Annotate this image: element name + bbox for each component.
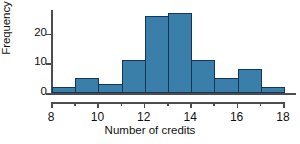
histogram-bar (168, 13, 192, 93)
x-tick-mark (213, 102, 215, 106)
y-tick-label: 10 (34, 55, 47, 67)
x-tick-mark (74, 102, 76, 106)
histogram-bar (191, 60, 215, 93)
x-tick-mark (121, 102, 123, 106)
histogram-bar (122, 60, 146, 93)
histogram-bar (238, 69, 262, 93)
histogram-bar (75, 78, 99, 93)
x-tick-label: 8 (48, 110, 55, 124)
plot-baseline (51, 93, 296, 95)
x-tick-mark (283, 102, 285, 108)
x-tick-mark (237, 102, 239, 108)
x-tick-label: 18 (276, 110, 289, 124)
histogram-figure: Frequency 01020 81012141618 Number of cr… (0, 0, 300, 144)
x-tick-label: 10 (91, 110, 104, 124)
x-tick-mark (144, 102, 146, 108)
x-tick-mark (97, 102, 99, 108)
y-tick-label: 0 (41, 85, 47, 97)
x-tick-label: 12 (137, 110, 150, 124)
histogram-bar (145, 16, 169, 93)
histogram-bar (98, 84, 122, 93)
bar-series (52, 10, 284, 93)
x-tick-mark (190, 102, 192, 108)
y-tick-label: 20 (34, 26, 47, 38)
x-axis-label: Number of credits (0, 124, 300, 136)
plot-area: 01020 (51, 10, 284, 94)
x-tick-label: 14 (184, 110, 197, 124)
histogram-bar (261, 87, 285, 93)
x-tick-mark (260, 102, 262, 106)
y-axis-label: Frequency (0, 0, 16, 68)
histogram-bar (214, 78, 238, 93)
x-tick-mark (51, 102, 53, 108)
histogram-bar (52, 87, 76, 93)
x-tick-mark (167, 102, 169, 106)
x-tick-label: 16 (230, 110, 243, 124)
